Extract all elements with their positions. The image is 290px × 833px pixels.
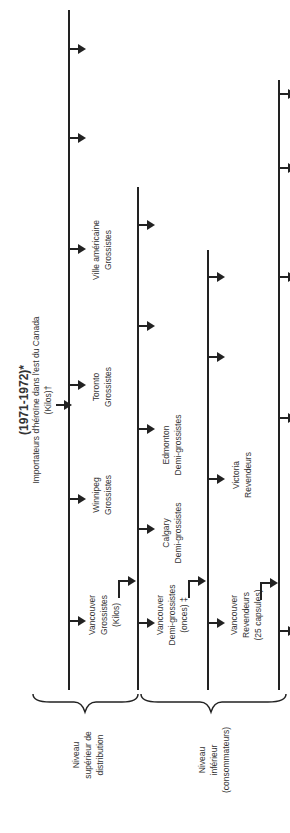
elbow-l2-l3-arrow <box>188 580 200 582</box>
level1-line <box>68 10 70 690</box>
arrow-vancouver-demi <box>139 622 149 624</box>
arrow-vancouver-revendeurs <box>209 622 219 624</box>
node-toronto: TorontoGrossistes <box>90 342 114 432</box>
node-vancouver-revendeurs: VancouverRevendeurs(25 capsules) <box>228 570 264 660</box>
upper-level-label: Niveausupérieur dedistribution <box>70 710 106 800</box>
importers-arrow <box>56 404 66 406</box>
arrow-l2-outlet-2 <box>139 224 149 226</box>
node-vancouver-grossistes: VancouverGrossistes(Kilos) <box>86 570 122 660</box>
importers-label: Importateurs d'héroïne dans l'est du Can… <box>30 280 54 520</box>
arrow-l3-outlet-2 <box>209 276 219 278</box>
arrow-l4-4 <box>280 167 290 169</box>
arrow-calgary <box>139 528 149 530</box>
arrow-vancouver-grossistes <box>70 620 80 622</box>
arrow-outlet-1 <box>70 137 80 139</box>
node-winnipeg: WinnipegGrossistes <box>90 450 114 540</box>
elbow-l3-l4 <box>260 582 262 600</box>
arrow-victoria <box>209 478 219 480</box>
level4-line <box>278 80 280 690</box>
node-vancouver-demi: VancouverDemi-grossistes(onces) ‡ <box>154 570 190 660</box>
arrow-outlet-2 <box>70 48 80 50</box>
arrow-l4-1 <box>280 630 290 632</box>
arrow-ville-americaine <box>70 248 80 250</box>
level3-line <box>207 250 209 690</box>
arrow-l4-2 <box>280 417 290 419</box>
arrow-winnipeg <box>70 498 80 500</box>
arrow-l4-3 <box>280 276 290 278</box>
node-calgary: CalgaryDemi-grossistes <box>160 488 184 578</box>
arrow-edmonton <box>139 428 149 430</box>
arrow-l3-outlet-1 <box>209 356 219 358</box>
elbow-l1-l2-arrow <box>124 580 130 582</box>
node-victoria: VictoriaRevendeurs <box>230 430 254 520</box>
lower-level-label: Niveauinférieur(consommateurs) <box>196 710 232 810</box>
diagram-title: (1971-1972)* <box>18 280 30 520</box>
elbow-l1-l2 <box>118 580 120 598</box>
node-edmonton: EdmontonDemi-grossistes <box>160 400 184 490</box>
elbow-l3-l4-arrow <box>260 582 272 584</box>
node-ville-americaine: Ville américaineGrossistes <box>90 200 114 300</box>
elbow-l2-l3 <box>188 580 190 598</box>
level2-line <box>137 187 139 690</box>
arrow-toronto <box>70 384 80 386</box>
arrow-l2-outlet-1 <box>139 325 149 327</box>
arrow-l4-5 <box>280 93 290 95</box>
